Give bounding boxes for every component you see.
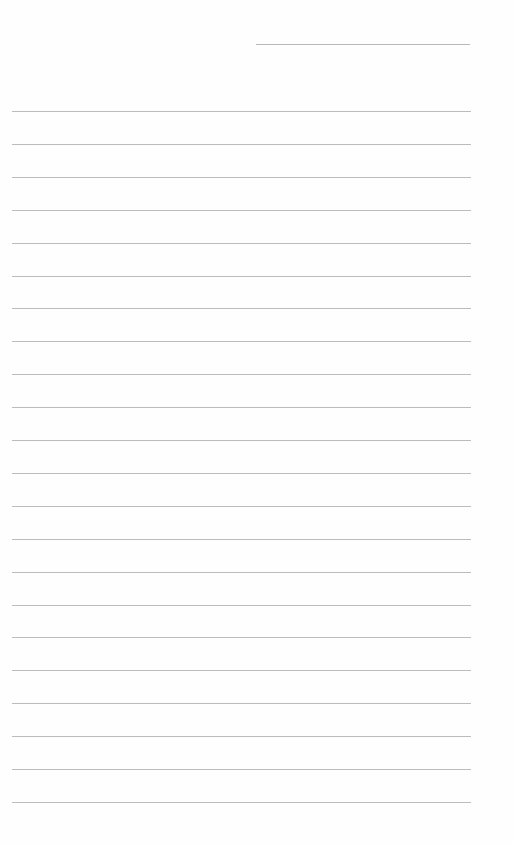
ruled-line [12,802,471,803]
ruled-line [12,506,471,507]
ruled-lines [12,0,471,844]
lined-paper-page [0,0,514,844]
ruled-line [12,769,471,770]
ruled-line [12,637,471,638]
ruled-line [12,473,471,474]
ruled-line [12,572,471,573]
ruled-line [12,276,471,277]
ruled-line [12,374,471,375]
ruled-line [12,111,471,112]
ruled-line [12,605,471,606]
ruled-line [12,440,471,441]
ruled-line [12,703,471,704]
ruled-line [12,308,471,309]
ruled-line [12,243,471,244]
ruled-line [12,341,471,342]
ruled-line [12,177,471,178]
ruled-line [12,144,471,145]
ruled-line [12,670,471,671]
ruled-line [12,210,471,211]
ruled-line [12,539,471,540]
ruled-line [12,407,471,408]
ruled-line [12,736,471,737]
